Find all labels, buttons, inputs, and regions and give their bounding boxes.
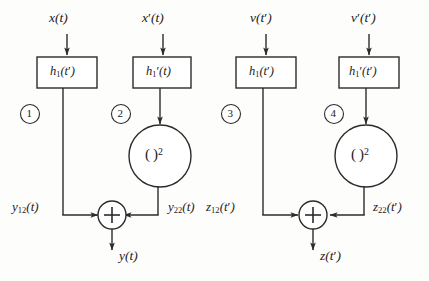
branch-3-block-label: h1(t′) (249, 65, 274, 80)
diagram-canvas (0, 0, 429, 281)
branch-3-output-label: z12(t′) (206, 200, 235, 215)
branch-2-input-label: x′(t) (142, 11, 164, 25)
branch-2-number-label: 2 (118, 108, 124, 119)
branch-4-input-label: v′(t′) (351, 11, 376, 25)
branch-2-squarer-label: ( )2 (145, 147, 163, 162)
adder-1-output-label: y(t) (119, 249, 138, 263)
branch-1-number-label: 1 (27, 108, 33, 119)
branch-4-squarer-label: ( )2 (351, 147, 369, 162)
branch-2-block-label: h1′(t) (146, 65, 171, 80)
branch-3-number-label: 3 (228, 108, 234, 119)
signal-flow-diagram: x(t) h1(t′) 1 y12(t) x′(t) h1′(t) 2 ( )2… (0, 0, 429, 281)
adder-2-output-label: z(t′) (320, 249, 341, 263)
branch-1-input-label: x(t) (49, 11, 68, 25)
branch-1-block-label: h1(t′) (50, 65, 75, 80)
branch-4-output-label: z22(t′) (373, 200, 402, 215)
branch-2-output-label: y22(t) (168, 200, 195, 215)
branch-3-input-label: v(t′) (250, 11, 272, 25)
branch-4-number-label: 4 (331, 108, 337, 119)
branch-1-output-label: y12(t) (12, 200, 39, 215)
branch-4-block-label: h1′(t′) (349, 65, 377, 80)
